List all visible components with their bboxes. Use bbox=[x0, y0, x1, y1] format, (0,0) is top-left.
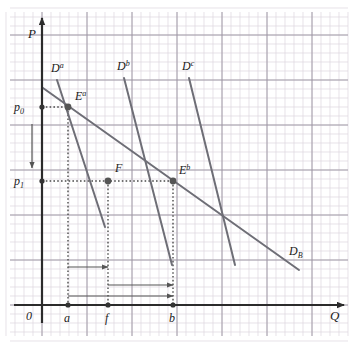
point-dot-Eb bbox=[170, 178, 177, 185]
point-label-F: F bbox=[114, 161, 123, 175]
price-tick-p0 bbox=[39, 104, 44, 109]
quantity-label-b: b bbox=[169, 311, 175, 325]
quantity-tick-f bbox=[105, 302, 110, 307]
quantity-tick-b bbox=[170, 302, 175, 307]
y-axis-label: P bbox=[27, 26, 36, 41]
quantity-tick-a bbox=[65, 302, 70, 307]
x-axis-label: Q bbox=[330, 308, 340, 323]
origin-label: 0 bbox=[26, 309, 32, 323]
quantity-label-a: a bbox=[64, 311, 70, 325]
point-dot-Ea bbox=[65, 104, 72, 111]
price-tick-p1 bbox=[39, 178, 44, 183]
diagram-canvas: PQ0p0p1afbDaDbDcDBEaFEb bbox=[0, 0, 354, 348]
demand-shift-diagram: PQ0p0p1afbDaDbDcDBEaFEb bbox=[0, 0, 354, 348]
point-dot-F bbox=[105, 178, 112, 185]
